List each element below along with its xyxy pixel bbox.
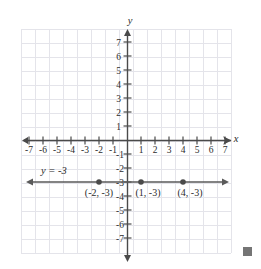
y-tick-label: 7 xyxy=(116,38,121,48)
y-tick-label: 2 xyxy=(116,108,121,118)
x-tick-label: -5 xyxy=(53,145,61,155)
corner-square-marker xyxy=(243,247,252,256)
x-tick-label: 6 xyxy=(209,145,214,155)
point-label-1-neg3: (1, -3) xyxy=(136,187,161,199)
plot-point xyxy=(96,179,102,185)
y-tick-label: -2 xyxy=(116,164,124,174)
y-axis xyxy=(124,29,132,262)
x-tick-label: 2 xyxy=(153,145,158,155)
point-label-neg2-neg3: (-2, -3) xyxy=(85,187,113,199)
y-tick-label: -6 xyxy=(116,220,124,230)
y-tick-label: -5 xyxy=(116,206,124,216)
equation-label: y = -3 xyxy=(40,165,67,176)
plot-point xyxy=(180,179,186,185)
x-tick-label: -6 xyxy=(39,145,47,155)
point-label-4-neg3: (4, -3) xyxy=(178,187,203,199)
y-tick-label: -4 xyxy=(116,192,124,202)
x-tick-label: 3 xyxy=(167,145,172,155)
x-tick-label: 4 xyxy=(181,145,186,155)
x-tick-label: -3 xyxy=(81,145,89,155)
y-tick-label: -3 xyxy=(116,178,124,188)
x-tick-label: -2 xyxy=(95,145,103,155)
x-axis xyxy=(22,137,231,145)
y-tick-label: -1 xyxy=(116,150,124,160)
y-tick-label: 6 xyxy=(116,52,121,62)
y-axis-label: y xyxy=(127,15,133,26)
x-axis-label: x xyxy=(233,133,239,144)
figure-canvas: -7 -6 -5 -4 -3 -2 -1 1 2 3 4 5 6 7 7 6 5… xyxy=(0,0,261,269)
y-tick-label: -7 xyxy=(116,234,124,244)
y-tick-label: 3 xyxy=(116,94,121,104)
plot-point xyxy=(138,179,144,185)
x-tick-label: 1 xyxy=(139,145,144,155)
y-tick-label: 5 xyxy=(116,66,121,76)
y-tick-label: 4 xyxy=(116,80,121,90)
y-tick-label: 1 xyxy=(116,122,121,132)
x-tick-label: -7 xyxy=(25,145,33,155)
coordinate-plane-graph: -7 -6 -5 -4 -3 -2 -1 1 2 3 4 5 6 7 7 6 5… xyxy=(0,0,261,269)
x-tick-label: 5 xyxy=(195,145,200,155)
x-tick-label: 7 xyxy=(223,145,228,155)
x-tick-label: -4 xyxy=(67,145,75,155)
